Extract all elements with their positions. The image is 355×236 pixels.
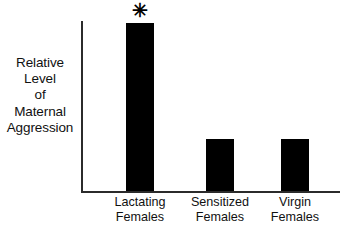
y-axis-label-line-4: Maternal — [2, 104, 78, 120]
category-label-line-2: Females — [245, 210, 345, 225]
plot-area — [83, 21, 340, 191]
bar-lactating-females — [126, 23, 154, 191]
bar-sensitized-females — [206, 139, 234, 191]
bar-chart-figure: Relative Level of Maternal Aggression ✳ … — [0, 0, 355, 236]
y-axis-label-line-3: of — [2, 87, 78, 103]
x-axis-line — [81, 191, 340, 193]
category-label-line-1: Virgin — [245, 195, 345, 210]
y-axis-label: Relative Level of Maternal Aggression — [2, 55, 78, 136]
y-axis-label-line-1: Relative — [2, 55, 78, 71]
y-axis-label-line-2: Level — [2, 71, 78, 87]
bar-virgin-females — [281, 139, 309, 191]
category-axis-labels: Lactating Females Sensitized Females Vir… — [83, 195, 340, 233]
category-label-virgin-females: Virgin Females — [245, 195, 345, 225]
significance-asterisk: ✳ — [126, 0, 154, 21]
y-axis-label-line-5: Aggression — [2, 120, 78, 136]
